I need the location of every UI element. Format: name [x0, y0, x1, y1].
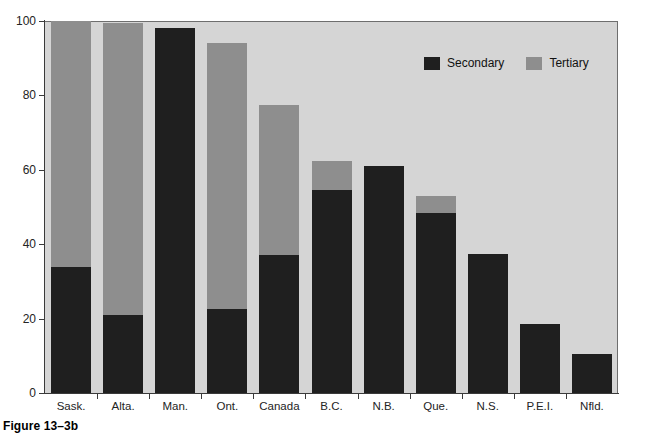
- legend-label-secondary: Secondary: [447, 56, 504, 70]
- x-axis-label-nb: N.B.: [358, 399, 410, 413]
- x-axis-label-man: Man.: [149, 399, 201, 413]
- figure-caption: Figure 13–3b: [3, 419, 78, 433]
- bar-group[interactable]: [207, 21, 247, 393]
- bar-segment-secondary[interactable]: [468, 254, 508, 394]
- y-tick-mark: [39, 244, 45, 245]
- figure-container: 020406080100 Sask.Alta.Man.Ont.CanadaB.C…: [0, 0, 650, 438]
- bar-segment-tertiary[interactable]: [207, 43, 247, 309]
- bar-group[interactable]: [364, 21, 404, 393]
- y-axis-line: [44, 20, 45, 394]
- bar-segment-tertiary[interactable]: [416, 196, 456, 213]
- bar-segment-secondary[interactable]: [51, 267, 91, 393]
- x-axis-label-ont: Ont.: [201, 399, 253, 413]
- bar-segment-secondary[interactable]: [155, 28, 195, 393]
- bar-group[interactable]: [155, 21, 195, 393]
- y-axis-tick: 0: [0, 393, 45, 394]
- x-axis-label-bc: B.C.: [305, 399, 357, 413]
- bar-segment-secondary[interactable]: [207, 309, 247, 393]
- bar-group[interactable]: [51, 21, 91, 393]
- y-tick-label: 100: [16, 13, 36, 29]
- bar-segment-secondary[interactable]: [103, 315, 143, 393]
- x-axis-label-sask: Sask.: [45, 399, 97, 413]
- x-axis-line: [44, 393, 619, 394]
- legend-item-secondary[interactable]: Secondary: [424, 56, 504, 70]
- bar-group[interactable]: [312, 21, 352, 393]
- legend-label-tertiary: Tertiary: [549, 56, 588, 70]
- bar-segment-secondary[interactable]: [259, 255, 299, 393]
- bar-segment-secondary[interactable]: [520, 324, 560, 393]
- bar-segment-tertiary[interactable]: [51, 21, 91, 267]
- y-tick-label: 20: [23, 311, 36, 327]
- bar-group[interactable]: [572, 21, 612, 393]
- bar-segment-tertiary[interactable]: [312, 161, 352, 191]
- bar-group[interactable]: [259, 21, 299, 393]
- y-axis-tick: 40: [0, 244, 45, 245]
- y-tick-mark: [39, 393, 45, 394]
- bar-segment-secondary[interactable]: [364, 166, 404, 393]
- bar-group[interactable]: [103, 21, 143, 393]
- bar-segment-secondary[interactable]: [312, 190, 352, 393]
- chart-legend: Secondary Tertiary: [424, 54, 589, 72]
- tertiary-swatch-icon: [526, 57, 542, 70]
- secondary-swatch-icon: [424, 57, 440, 70]
- bar-group[interactable]: [416, 21, 456, 393]
- y-tick-label: 40: [23, 236, 36, 252]
- y-axis-tick: 60: [0, 170, 45, 171]
- bar-segment-secondary[interactable]: [416, 213, 456, 393]
- y-axis-tick: 100: [0, 21, 45, 22]
- x-axis-label-pei: P.E.I.: [514, 399, 566, 413]
- bar-segment-tertiary[interactable]: [103, 23, 143, 315]
- y-tick-label: 80: [23, 87, 36, 103]
- bar-segment-tertiary[interactable]: [259, 105, 299, 256]
- x-axis-label-ns: N.S.: [462, 399, 514, 413]
- y-tick-mark: [39, 21, 45, 22]
- y-tick-mark: [39, 170, 45, 171]
- y-tick-label: 60: [23, 162, 36, 178]
- x-axis-label-que: Que.: [410, 399, 462, 413]
- y-tick-mark: [39, 95, 45, 96]
- bar-group[interactable]: [468, 21, 508, 393]
- bar-group[interactable]: [520, 21, 560, 393]
- legend-item-tertiary[interactable]: Tertiary: [526, 56, 588, 70]
- x-axis-label-alta: Alta.: [97, 399, 149, 413]
- x-axis-label-canada: Canada: [253, 399, 305, 413]
- y-axis-tick: 20: [0, 319, 45, 320]
- x-axis-label-nfld: Nfld.: [566, 399, 618, 413]
- y-tick-label: 0: [29, 385, 36, 401]
- y-axis-tick: 80: [0, 95, 45, 96]
- y-tick-mark: [39, 319, 45, 320]
- bar-segment-secondary[interactable]: [572, 354, 612, 393]
